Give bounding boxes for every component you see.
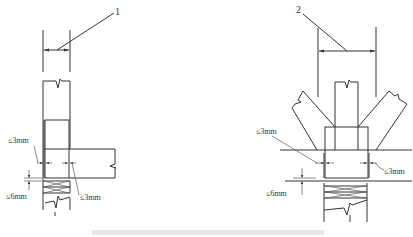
left-detail: 1 ≤3mm ≤3mm <box>6 6 120 216</box>
gap-label-right-right: ≤3mm <box>384 167 406 176</box>
right-detail: 2 ≤3mm <box>256 4 412 222</box>
diagram-canvas: 1 ≤3mm ≤3mm <box>0 0 413 237</box>
callout-2-label: 2 <box>296 4 301 15</box>
gap-label-left-top: ≤3mm <box>8 136 30 145</box>
figure-caption <box>92 230 324 235</box>
gap-label-left-bottom: ≤3mm <box>80 193 102 202</box>
gap-label-right-left: ≤3mm <box>256 127 278 136</box>
gap-label-left-vertical: ≤6mm <box>6 192 28 201</box>
gap-label-right-vertical: ≤6mm <box>266 189 288 198</box>
callout-1-label: 1 <box>115 6 120 17</box>
